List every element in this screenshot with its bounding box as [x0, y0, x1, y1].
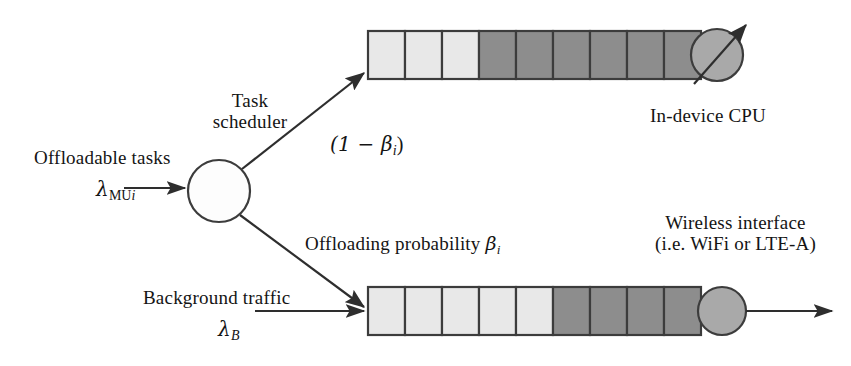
wireless-interface-label: Wireless interface (i.e. WiFi or LTE-A)	[628, 212, 843, 255]
wireless-queue-cell-6	[553, 287, 590, 335]
wireless-queue-cell-7	[590, 287, 627, 335]
in-device-cpu-label: In-device CPU	[650, 105, 766, 126]
offloading-probability-label: Offloading probability βi	[305, 233, 500, 258]
offloading-queue-diagram: Task scheduler Offloadable tasks λMUi (1…	[0, 0, 851, 366]
cpu-queue-cell-7	[590, 31, 627, 79]
wireless-queue-cell-3	[442, 287, 479, 335]
beta-subscript-index: i	[497, 242, 501, 257]
cpu-queue-cell-6	[553, 31, 590, 79]
cpu-queue-cell-2	[405, 31, 442, 79]
offloadable-tasks-label: Offloadable tasks	[34, 147, 171, 168]
wireless-queue-cell-9	[664, 287, 701, 335]
lambda-b-symbol: λ	[218, 317, 231, 341]
lambda-symbol: λ	[96, 177, 109, 201]
wireless-interface-label-line1: Wireless interface	[665, 212, 806, 233]
wireless-queue-cell-5	[516, 287, 553, 335]
one-minus-beta-close-paren: )	[397, 133, 404, 155]
task-scheduler-node	[188, 160, 250, 222]
wireless-interface-label-line2: (i.e. WiFi or LTE-A)	[655, 233, 816, 254]
wireless-interface-server-icon	[698, 287, 746, 335]
one-minus-beta-label: (1 − βi)	[330, 133, 404, 159]
lambda-mu-subscript: MU	[109, 188, 132, 203]
wireless-queue-cell-4	[479, 287, 516, 335]
cpu-queue-cell-1	[368, 31, 405, 79]
wireless-queue-cell-8	[627, 287, 664, 335]
wireless-queue	[368, 287, 701, 335]
task-scheduler-label-line1: Task	[232, 90, 268, 111]
wireless-queue-cell-1	[368, 287, 405, 335]
cpu-queue-cell-3	[442, 31, 479, 79]
lambda-b-rate-label: λB	[218, 318, 239, 344]
cpu-queue-cell-5	[516, 31, 553, 79]
background-traffic-label: Background traffic	[143, 287, 290, 308]
offloading-probability-text: Offloading probability	[305, 233, 481, 254]
lambda-mu-rate-label: λMUi	[96, 178, 135, 204]
one-minus-beta-expression: (1 − β	[330, 132, 393, 156]
task-scheduler-label-line2: scheduler	[213, 111, 288, 132]
task-scheduler-label: Task scheduler	[185, 90, 315, 133]
wireless-queue-cell-2	[405, 287, 442, 335]
cpu-queue-cell-4	[479, 31, 516, 79]
cpu-queue-cell-8	[627, 31, 664, 79]
cpu-queue	[368, 31, 701, 79]
lambda-b-subscript: B	[231, 328, 240, 343]
lambda-mu-subscript-index: i	[131, 188, 135, 203]
beta-symbol: β	[486, 232, 497, 254]
